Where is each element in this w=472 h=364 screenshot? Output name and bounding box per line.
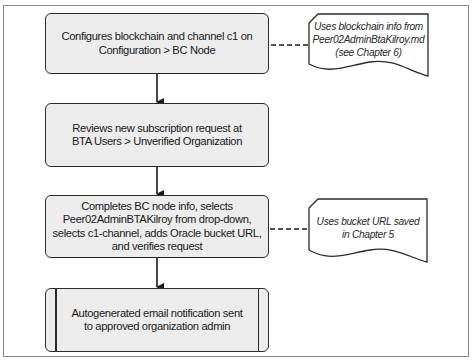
step3-line3: selects c1-channel, adds Oracle bucket U… [53,227,262,241]
note-blockchain-info: Uses blockchain info from Peer02AdminBta… [309,20,428,59]
step4-line1: Autogenerated email notification sent [71,307,242,321]
step-email-notification: Autogenerated email notification sent to… [45,288,269,352]
note2-line2: in Chapter 5 [309,228,427,241]
step3-line2: Peer02AdminBTAKilroy from drop-down, [53,213,262,227]
note1-line1: Uses blockchain info from [309,20,428,33]
step2-line2: BTA Users > Unverified Organization [72,135,242,149]
step2-line1: Reviews new subscription request at [72,122,242,136]
step-configure-blockchain: Configures blockchain and channel c1 on … [45,13,269,74]
step-complete-bc-node-info: Completes BC node info, selects Peer02Ad… [45,195,269,258]
step1-line1: Configures blockchain and channel c1 on [62,30,253,44]
step-review-subscription: Reviews new subscription request at BTA … [45,103,269,167]
note1-line3: (see Chapter 6) [309,46,428,59]
note2-line1: Uses bucket URL saved [309,215,427,228]
step1-line2: Configuration > BC Node [62,44,253,58]
step3-line4: and verifies request [53,240,262,254]
note1-line2: Peer02AdminBtaKilroy.md [309,33,428,46]
note-bucket-url: Uses bucket URL saved in Chapter 5 [309,215,427,241]
step3-line1: Completes BC node info, selects [53,200,262,214]
step4-line2: to approved organization admin [71,320,242,334]
